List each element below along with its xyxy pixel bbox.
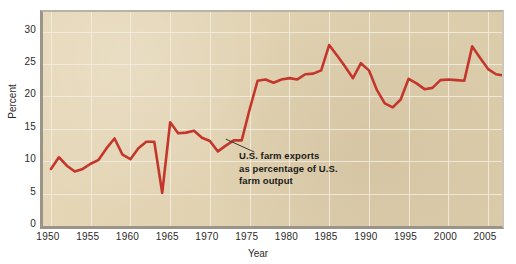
series-annotation: U.S. farm exports as percentage of U.S. … xyxy=(239,150,338,188)
x-tick-1980: 1980 xyxy=(275,231,298,242)
x-axis-title: Year xyxy=(0,248,516,259)
x-tick-1975: 1975 xyxy=(235,231,258,242)
annotation-line-1: U.S. farm exports xyxy=(239,150,338,163)
data-series-layer xyxy=(43,12,504,226)
y-tick-25: 25 xyxy=(2,56,36,67)
y-tick-10: 10 xyxy=(2,153,36,164)
y-tick-0: 0 xyxy=(2,218,36,229)
y-tick-5: 5 xyxy=(2,186,36,197)
y-axis-title: Percent xyxy=(7,72,18,132)
x-tick-1960: 1960 xyxy=(116,231,139,242)
plot-area xyxy=(40,10,504,229)
x-tick-1970: 1970 xyxy=(195,231,218,242)
x-tick-2000: 2000 xyxy=(434,231,457,242)
x-axis-tick-labels: 1950195519601965197019751980198519901995… xyxy=(40,231,504,247)
y-axis-tick-labels: 302520151050 xyxy=(0,10,36,229)
x-tick-1995: 1995 xyxy=(394,231,417,242)
annotation-line-2: as percentage of U.S. xyxy=(239,163,338,176)
x-tick-2005: 2005 xyxy=(474,231,497,242)
x-tick-1965: 1965 xyxy=(156,231,179,242)
x-tick-1990: 1990 xyxy=(354,231,377,242)
farm-exports-line-chart: 302520151050 Percent 1950195519601965197… xyxy=(0,0,516,264)
x-tick-1950: 1950 xyxy=(36,231,59,242)
x-tick-1985: 1985 xyxy=(315,231,338,242)
y-tick-30: 30 xyxy=(2,24,36,35)
x-tick-1955: 1955 xyxy=(76,231,99,242)
annotation-line-3: farm output xyxy=(239,175,338,188)
